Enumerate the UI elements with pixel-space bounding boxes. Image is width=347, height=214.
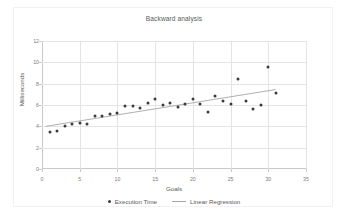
datapoint	[48, 131, 51, 134]
y-tick-mark	[39, 169, 42, 170]
datapoint	[184, 102, 187, 105]
x-tick-label: 30	[265, 176, 271, 182]
datapoint	[214, 94, 217, 97]
legend-label-linear-regression: Linear Regression	[190, 198, 240, 205]
datapoint	[101, 114, 104, 117]
datapoint	[222, 100, 225, 103]
x-tick-mark	[42, 169, 43, 172]
datapoint	[274, 92, 277, 95]
datapoint	[161, 104, 164, 107]
gridline-vertical	[306, 41, 307, 169]
datapoint	[199, 102, 202, 105]
datapoint	[86, 122, 89, 125]
datapoint	[116, 112, 119, 115]
datapoint	[146, 101, 149, 104]
datapoint	[154, 97, 157, 100]
x-tick-mark	[268, 169, 269, 172]
datapoint	[78, 121, 81, 124]
datapoint	[229, 102, 232, 105]
datapoint	[63, 125, 66, 128]
x-tick-mark	[231, 169, 232, 172]
datapoint	[93, 114, 96, 117]
y-tick-label: 8	[30, 81, 39, 87]
y-tick-label: 4	[30, 123, 39, 129]
x-tick-mark	[306, 169, 307, 172]
x-tick-label: 10	[115, 176, 121, 182]
x-tick-label: 25	[228, 176, 234, 182]
linear-regression-line	[42, 41, 306, 169]
datapoint	[244, 100, 247, 103]
y-tick-label: 6	[30, 102, 39, 108]
x-tick-label: 35	[303, 176, 309, 182]
x-axis-title: Goals	[14, 185, 334, 192]
datapoint	[169, 101, 172, 104]
dot-marker-icon	[108, 200, 111, 203]
datapoint	[56, 129, 59, 132]
x-tick-label: 20	[190, 176, 196, 182]
datapoint	[267, 65, 270, 68]
legend-label-execution-time: Execution Time	[115, 198, 157, 205]
y-tick-label: 10	[30, 59, 39, 65]
datapoint	[206, 111, 209, 114]
x-tick-label: 15	[152, 176, 158, 182]
x-tick-mark	[80, 169, 81, 172]
datapoint	[108, 113, 111, 116]
datapoint	[131, 104, 134, 107]
plot-area: 05101520253035 024681012	[42, 41, 306, 169]
x-tick-mark	[155, 169, 156, 172]
x-tick-label: 0	[41, 176, 44, 182]
y-tick-label: 0	[30, 166, 39, 172]
datapoint	[71, 122, 74, 125]
y-tick-label: 2	[30, 145, 39, 151]
datapoint	[237, 78, 240, 81]
line-marker-icon	[172, 201, 186, 202]
y-tick-label: 12	[30, 38, 39, 44]
datapoint	[191, 97, 194, 100]
legend-item-linear-regression[interactable]: Linear Regression	[172, 198, 240, 205]
datapoint	[139, 107, 142, 110]
chart-legend: Execution Time Linear Regression	[14, 198, 334, 205]
y-axis-title: Milliseconds	[18, 60, 25, 120]
datapoint	[176, 105, 179, 108]
chart-title: Backward analysis	[14, 15, 334, 22]
legend-item-execution-time[interactable]: Execution Time	[108, 198, 157, 205]
datapoint	[252, 107, 255, 110]
chart-container: Backward analysis 05101520253035 0246810…	[13, 7, 333, 207]
datapoint	[259, 104, 262, 107]
x-tick-label: 5	[78, 176, 81, 182]
x-tick-mark	[193, 169, 194, 172]
datapoint	[123, 105, 126, 108]
x-tick-mark	[117, 169, 118, 172]
